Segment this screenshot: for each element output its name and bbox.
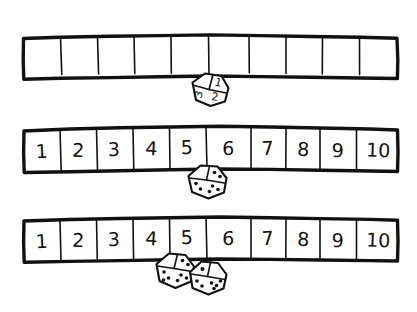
die-body bbox=[190, 262, 227, 295]
cell-label: 1 bbox=[35, 140, 48, 163]
number-line-labels: 1 2 3 4 5 6 7 8 9 10 bbox=[35, 226, 391, 253]
number-line-row-1[interactable]: 1 3 2 bbox=[23, 35, 398, 106]
cell-label: 2 bbox=[72, 139, 85, 161]
die-pips-single[interactable] bbox=[189, 166, 227, 199]
number-line-row-2[interactable]: 1 2 3 4 5 6 7 8 9 10 bbox=[24, 126, 398, 198]
die-pips-left[interactable] bbox=[157, 254, 195, 289]
cell-label: 8 bbox=[297, 228, 310, 250]
cell-label: 4 bbox=[145, 137, 158, 160]
number-line-row-3[interactable]: 1 2 3 4 5 6 7 8 9 10 bbox=[24, 217, 398, 295]
cell-label: 10 bbox=[366, 139, 391, 162]
die-pips-right[interactable] bbox=[190, 262, 227, 295]
cell-label: 7 bbox=[261, 227, 274, 250]
number-line-dividers bbox=[60, 127, 357, 170]
number-line-frame bbox=[23, 35, 398, 79]
number-line-labels: 1 2 3 4 5 6 7 8 9 10 bbox=[35, 136, 391, 163]
cell-label: 9 bbox=[331, 139, 344, 161]
cell-label: 5 bbox=[180, 136, 193, 158]
cell-label: 10 bbox=[366, 229, 391, 252]
number-line-dividers bbox=[60, 217, 357, 260]
cell-label: 3 bbox=[107, 138, 120, 160]
cell-label: 5 bbox=[180, 226, 193, 248]
cell-label: 8 bbox=[297, 138, 310, 160]
worksheet-canvas: 1 3 2 1 2 3 4 5 6 7 8 9 10 bbox=[0, 0, 417, 312]
cell-label: 1 bbox=[35, 230, 48, 253]
cell-label: 2 bbox=[72, 229, 85, 251]
cell-label: 9 bbox=[331, 229, 344, 251]
cell-label: 3 bbox=[107, 228, 120, 250]
cell-label: 7 bbox=[261, 137, 274, 160]
number-line-dividers bbox=[61, 35, 360, 76]
cell-label: 4 bbox=[145, 227, 158, 250]
cell-label: 6 bbox=[222, 137, 235, 159]
cell-label: 6 bbox=[222, 227, 235, 249]
die-numeral-1-2-3[interactable]: 1 3 2 bbox=[191, 74, 228, 107]
